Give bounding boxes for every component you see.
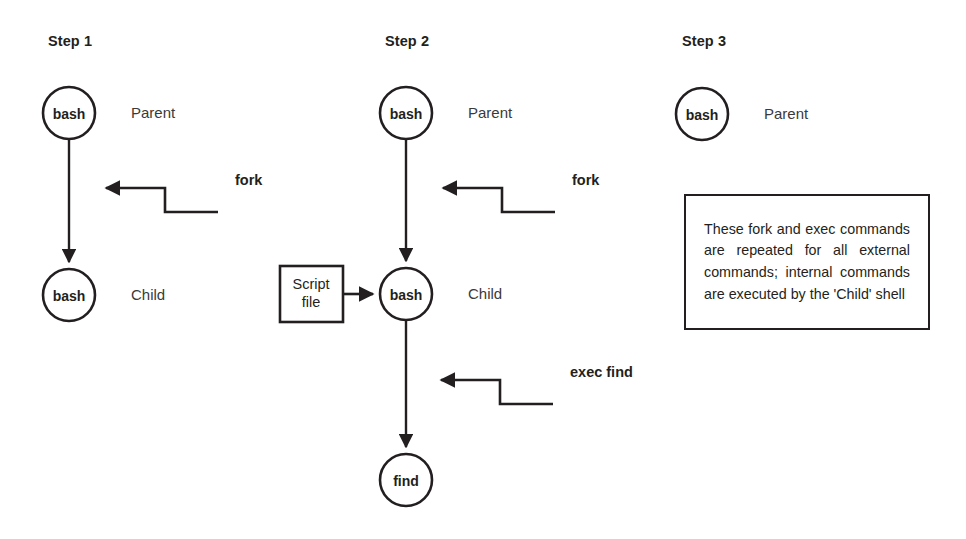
step-1-heading: Step 1 [48, 33, 92, 49]
exec-arrow-step-2 [441, 380, 553, 404]
node-label-s1-parent: bash [53, 106, 86, 122]
node-label-s2-child: bash [390, 287, 423, 303]
call-label-s2-fork: fork [572, 172, 599, 188]
node-label-s1-child: bash [53, 288, 86, 304]
role-label-s1-child: Child [131, 286, 165, 303]
fork-arrow-step-2 [443, 188, 555, 212]
node-label-s3-parent: bash [686, 107, 719, 123]
call-label-s1-fork: fork [235, 172, 262, 188]
diagram-canvas: Step 1 bash Parent bash Child fork Step … [0, 0, 966, 539]
step-2-heading: Step 2 [385, 33, 429, 49]
node-label-s2-script-file: Script file [292, 276, 329, 311]
node-label-s2-find: find [393, 473, 419, 489]
fork-arrow-step-1 [106, 188, 218, 212]
note-box: These fork and exec commands are repeate… [684, 194, 930, 330]
role-label-s1-parent: Parent [131, 104, 175, 121]
call-label-s2-exec-find: exec find [570, 364, 633, 380]
node-label-s2-parent: bash [390, 106, 423, 122]
role-label-s3-parent: Parent [764, 105, 808, 122]
step-3-heading: Step 3 [682, 33, 726, 49]
role-label-s2-parent: Parent [468, 104, 512, 121]
note-text: These fork and exec commands are repeate… [704, 219, 910, 306]
role-label-s2-child: Child [468, 285, 502, 302]
